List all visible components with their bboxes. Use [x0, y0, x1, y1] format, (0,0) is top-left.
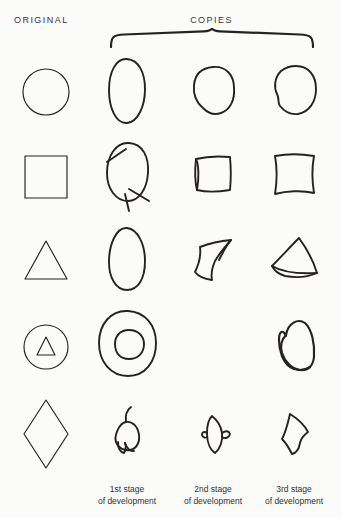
- cell-row3-stage1: [85, 220, 169, 304]
- caption-stage1-line1: 1st stage: [79, 484, 175, 496]
- cell-row1-stage1: [85, 50, 169, 134]
- shape-oval: [85, 50, 169, 134]
- cell-row2-stage1: [85, 135, 169, 219]
- cell-row3-stage3: [252, 220, 336, 304]
- cell-row4-stage3: [252, 305, 336, 389]
- shape-none: [171, 305, 255, 389]
- shape-diamond: [4, 392, 88, 476]
- shape-double-lobe: [171, 392, 255, 476]
- caption-stage1-line2: of development: [79, 496, 175, 508]
- caption-stage3-line1: 3rd stage: [246, 484, 341, 496]
- shape-rounded-triangle: [252, 220, 336, 304]
- shape-square: [4, 135, 88, 219]
- cell-row4-stage1: [85, 305, 169, 389]
- shape-circle: [4, 50, 88, 134]
- cell-row1-original: [4, 50, 88, 134]
- cell-row4-stage2: [171, 305, 255, 389]
- shape-circle-with-crossings: [85, 135, 169, 219]
- shape-scribble-loop: [85, 392, 169, 476]
- shape-rounded-blob: [171, 50, 255, 134]
- column-header-copies: COPIES: [112, 15, 311, 25]
- curly-brace-icon: [108, 28, 316, 48]
- cell-row5-stage2: [171, 392, 255, 476]
- cell-row4-original: [4, 305, 88, 389]
- caption-stage3-line2: of development: [246, 496, 341, 508]
- shape-angular-kite: [252, 392, 336, 476]
- cell-row5-stage3: [252, 392, 336, 476]
- shape-leaf-diamond: [171, 220, 255, 304]
- shape-triangle: [4, 220, 88, 304]
- cell-row2-original: [4, 135, 88, 219]
- cell-row1-stage3: [252, 50, 336, 134]
- shape-wobbly-square: [171, 135, 255, 219]
- shape-looped-teardrop: [252, 305, 336, 389]
- cell-row2-stage3: [252, 135, 336, 219]
- shape-wobbly-square-bowed: [252, 135, 336, 219]
- cell-row5-original: [4, 392, 88, 476]
- caption-stage1: 1st stage of development: [79, 484, 175, 507]
- cell-row2-stage2: [171, 135, 255, 219]
- figure-plate: ORIGINAL COPIES: [0, 0, 341, 518]
- shape-rounded-blob-notched: [252, 50, 336, 134]
- cell-row5-stage1: [85, 392, 169, 476]
- cell-row1-stage2: [171, 50, 255, 134]
- cell-row3-stage2: [171, 220, 255, 304]
- shape-egg: [85, 220, 169, 304]
- shape-triangle-in-circle: [4, 305, 88, 389]
- cell-row3-original: [4, 220, 88, 304]
- column-header-original: ORIGINAL: [14, 15, 69, 25]
- shape-circle-in-blob: [85, 305, 169, 389]
- caption-stage3: 3rd stage of development: [246, 484, 341, 507]
